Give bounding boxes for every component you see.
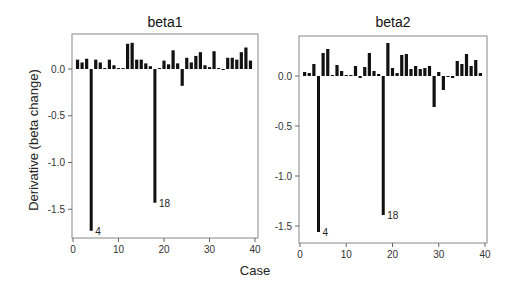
bar (149, 66, 152, 69)
bar (433, 76, 436, 107)
bar (317, 76, 320, 232)
bar (382, 76, 385, 215)
y-tick-label: -1.0 (48, 157, 66, 168)
bar (249, 61, 252, 69)
bar (303, 72, 306, 76)
bar (162, 61, 165, 69)
case-annotation: 4 (323, 227, 329, 238)
x-tick-label: 10 (113, 244, 125, 255)
bar (158, 68, 161, 69)
bar (372, 71, 375, 76)
x-tick-label: 0 (297, 249, 303, 260)
case-annotation: 4 (95, 226, 101, 237)
bar (244, 47, 247, 69)
bar (456, 61, 459, 76)
y-tick-label: -1.5 (275, 221, 293, 232)
bar (126, 44, 129, 69)
x-tick-label: 10 (341, 249, 353, 260)
bar (479, 73, 482, 76)
bar (94, 60, 97, 69)
bar (312, 64, 315, 76)
bar (437, 72, 440, 76)
bar (331, 75, 334, 76)
bar (121, 68, 124, 69)
x-tick-label: 40 (249, 244, 261, 255)
bar (428, 66, 431, 76)
panel-title: beta1 (147, 14, 182, 30)
bar (103, 68, 106, 69)
panel-beta1: beta10.0-0.5-1.0-1.5010203040418 (48, 14, 261, 255)
bar (212, 51, 215, 69)
x-axis-title: Case (240, 263, 270, 278)
bar (85, 59, 88, 69)
bar (99, 62, 102, 69)
bar (208, 67, 211, 69)
bar (386, 43, 389, 76)
y-tick-label: 0.0 (51, 64, 65, 75)
bar (368, 53, 371, 76)
bar (363, 67, 366, 76)
figure: beta10.0-0.5-1.0-1.5010203040418 beta20.… (0, 0, 514, 289)
bar (90, 69, 93, 231)
bar (442, 76, 445, 90)
bar (117, 68, 120, 69)
bar (400, 55, 403, 76)
bar (359, 76, 362, 78)
bar (414, 66, 417, 76)
bar (153, 69, 156, 203)
bar (240, 52, 243, 69)
bar (377, 74, 380, 76)
bar (409, 69, 412, 76)
bar (135, 60, 138, 69)
bar (470, 66, 473, 76)
bar (446, 76, 449, 77)
bar (199, 52, 202, 69)
bar (167, 64, 170, 69)
bar (354, 66, 357, 76)
bar (345, 75, 348, 76)
bar (140, 60, 143, 69)
bar (451, 76, 454, 78)
bar (474, 60, 477, 76)
bar (190, 62, 193, 69)
x-tick-label: 20 (158, 244, 170, 255)
bar (231, 58, 234, 69)
y-tick-label: -1.0 (275, 171, 293, 182)
bar (131, 43, 134, 69)
bar (81, 62, 84, 69)
bar (423, 68, 426, 76)
bar (460, 64, 463, 76)
y-axis-title: Derivative (beta change) (26, 69, 41, 211)
bar (308, 73, 311, 76)
bar (203, 65, 206, 69)
bar (112, 65, 115, 69)
x-tick-label: 40 (479, 249, 491, 260)
case-annotation: 18 (387, 210, 399, 221)
panel-beta2: beta20.0-0.5-1.0-1.5010203040418 (275, 14, 491, 260)
bar (235, 60, 238, 69)
bar (144, 63, 147, 69)
bar (108, 60, 111, 69)
bar (465, 54, 468, 76)
bar (335, 65, 338, 76)
bar (405, 54, 408, 76)
x-tick-label: 20 (387, 249, 399, 260)
bar (185, 58, 188, 69)
bar (217, 68, 220, 69)
bar (226, 58, 229, 69)
panel-title: beta2 (375, 14, 410, 30)
bar (419, 69, 422, 76)
x-tick-label: 30 (433, 249, 445, 260)
bar (391, 68, 394, 76)
bar (194, 56, 197, 69)
bar (176, 63, 179, 69)
bar (340, 71, 343, 76)
bar (222, 69, 225, 70)
y-tick-label: -0.5 (48, 110, 66, 121)
bar (396, 73, 399, 76)
figure-canvas: beta10.0-0.5-1.0-1.5010203040418 beta20.… (0, 0, 514, 289)
bar (349, 75, 352, 76)
x-tick-label: 0 (70, 244, 76, 255)
case-annotation: 18 (159, 198, 171, 209)
bar (322, 53, 325, 76)
